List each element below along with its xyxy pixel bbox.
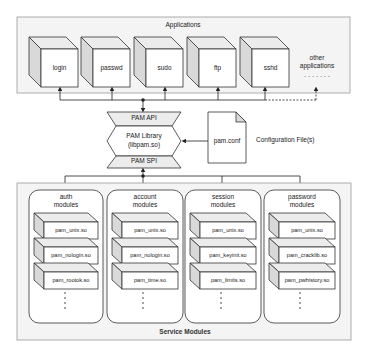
app-label-login: login	[41, 64, 78, 72]
pam-api-label: PAM API	[116, 114, 172, 122]
module-label: pam_keyinit.so	[200, 252, 256, 259]
pam-spi-label: PAM SPI	[116, 157, 172, 165]
app-cube-ftp	[187, 37, 236, 87]
module-slab	[112, 238, 178, 264]
app-label-sshd: sshd	[252, 64, 289, 72]
module-label: pam_unix.so	[122, 227, 178, 234]
module-slab	[34, 213, 98, 239]
group-title-auth-1: auth	[29, 193, 103, 201]
app-cube-login	[29, 37, 78, 87]
other-apps-ellipsis: · · · · · · ·	[292, 73, 342, 81]
pam-library-line1: PAM Library	[110, 132, 178, 140]
app-label-ftp: ftp	[199, 64, 236, 72]
module-slab	[269, 263, 335, 289]
module-slab	[269, 213, 335, 239]
module-label: pam_unix.so	[279, 227, 335, 234]
group-title-auth-2: modules	[29, 201, 103, 209]
other-apps-line2: applications	[292, 62, 342, 70]
module-label: pam_cracklib.so	[279, 252, 335, 259]
module-label: pam_limits.so	[200, 277, 256, 284]
group-title-password-1: password	[264, 193, 340, 201]
group-title-password-2: modules	[264, 201, 340, 209]
config-caption: Configuration File(s)	[256, 136, 336, 144]
module-slab	[112, 213, 178, 239]
app-cube-passwd	[81, 37, 130, 87]
group-title-session-2: modules	[185, 201, 261, 209]
module-slab	[190, 213, 256, 239]
group-title-account-1: account	[107, 193, 183, 201]
app-cube-sudo	[134, 37, 183, 87]
app-label-sudo: sudo	[146, 64, 183, 72]
service-modules-title: Service Modules	[145, 328, 225, 336]
other-apps-line1: other	[292, 54, 342, 62]
config-file-label: pam.conf	[208, 137, 246, 145]
module-label: pam_pwhistory.so	[279, 277, 335, 284]
module-slab	[269, 238, 335, 264]
module-label: pam_unix.so	[44, 227, 98, 234]
applications-title: Applications	[143, 21, 223, 29]
pam-library-line2: (libpam.so)	[110, 141, 178, 149]
app-label-passwd: passwd	[93, 64, 130, 72]
module-slab	[190, 263, 256, 289]
module-label: pam_unix.so	[200, 227, 256, 234]
group-title-account-2: modules	[107, 201, 183, 209]
module-label: pam_rootok.so	[44, 277, 98, 284]
module-slab	[112, 263, 178, 289]
module-label: pam_nologin.so	[122, 252, 178, 259]
module-label: pam_time.so	[122, 277, 178, 284]
module-slab	[34, 263, 98, 289]
app-cube-sshd	[240, 37, 289, 87]
module-slab	[34, 238, 98, 264]
module-label: pam_nologin.so	[44, 252, 98, 259]
group-title-session-1: session	[185, 193, 261, 201]
module-slab	[190, 238, 256, 264]
